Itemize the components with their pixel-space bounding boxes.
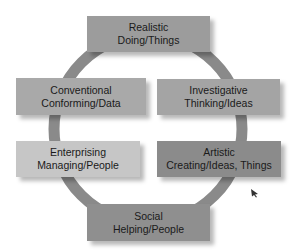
node-type-label: Investigative [189,84,247,97]
node-focus-label: Helping/People [113,223,184,236]
node-focus-label: Creating/Ideas, Things [166,159,271,172]
node-enterprising: Enterprising Managing/People [16,141,140,177]
node-focus-label: Conforming/Data [41,97,120,110]
node-type-label: Conventional [50,84,111,97]
node-focus-label: Doing/Things [118,34,180,47]
node-type-label: Enterprising [50,146,106,159]
node-artistic: Artistic Creating/Ideas, Things [157,141,281,177]
ring-circle [54,35,242,223]
node-focus-label: Managing/People [37,159,119,172]
node-realistic: Realistic Doing/Things [87,16,210,52]
node-investigative: Investigative Thinking/Ideas [157,79,280,115]
node-focus-label: Thinking/Ideas [184,97,252,110]
node-conventional: Conventional Conforming/Data [16,78,146,115]
mouse-cursor-icon [250,188,260,198]
node-type-label: Realistic [129,21,169,34]
node-social: Social Helping/People [87,204,210,241]
node-type-label: Social [134,210,163,223]
node-type-label: Artistic [203,146,235,159]
